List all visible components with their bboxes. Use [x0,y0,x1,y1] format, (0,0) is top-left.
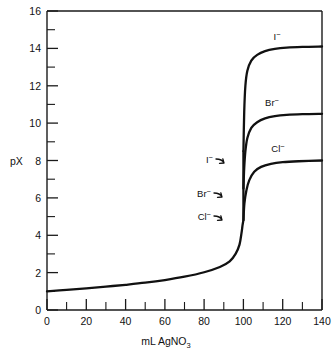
series-label-bromide-outer: Br− [265,96,280,108]
y-tick-label: 10 [29,117,41,129]
series-label-bromide-outer-text: Br [265,97,275,108]
curve-iodide [243,47,322,152]
shared-titration-curve [47,151,243,291]
y-tick-label: 4 [35,229,41,241]
y-axis-tick-labels: 0 2 4 6 8 10 12 14 16 [29,5,41,316]
y-tick-label: 6 [35,192,41,204]
series-label-chloride-outer: Cl− [271,142,285,154]
y-tick-label: 2 [35,267,41,279]
y-tick-label: 12 [29,80,41,92]
x-tick-label: 140 [313,315,331,327]
curve-chloride [243,161,322,221]
x-axis-title-subscript: 3 [186,341,190,350]
series-label-chloride-inner-charge: − [207,210,212,219]
series-label-chloride-outer-charge: − [280,142,285,151]
series-label-bromide-inner-text: Br [197,188,207,199]
series-label-iodide-inner: I− [206,153,214,165]
x-tick-label: 40 [120,315,132,327]
y-tick-label: 8 [35,155,41,167]
x-tick-label: 80 [198,315,210,327]
x-axis-title: mL AgNO3 [141,335,190,350]
series-label-iodide-outer: I− [273,30,281,42]
series-label-bromide-inner: Br− [197,187,212,199]
series-label-iodide-inner-charge: − [209,153,214,162]
series-label-chloride-inner-text: Cl [198,211,207,222]
chart-figure: 0 2 4 6 8 10 12 14 16 pX [0,0,334,352]
series-label-bromide-outer-charge: − [275,96,280,105]
x-tick-label: 0 [44,315,50,327]
leader-arrow-iodide [216,159,224,164]
y-tick-label: 16 [29,5,41,17]
series-label-iodide-outer-charge: − [276,30,281,39]
leader-arrows [214,159,224,221]
y-tick-label: 0 [35,304,41,316]
x-axis-tick-labels: 0 20 40 60 80 100 120 140 [44,315,331,327]
leader-arrow-chloride [214,216,222,221]
series-label-bromide-inner-charge: − [207,187,212,196]
curve-bromide [243,114,322,189]
x-tick-label: 20 [80,315,92,327]
x-axis-ticks [47,299,322,310]
titration-curve-chart: 0 2 4 6 8 10 12 14 16 pX [0,0,334,352]
y-axis-title: pX [10,155,23,167]
series-labels-inner: I− Br− Cl− [197,153,214,222]
x-tick-label: 60 [159,315,171,327]
y-tick-label: 14 [29,42,41,54]
series-label-chloride-inner: Cl− [198,210,212,222]
x-axis-title-main: mL AgNO [141,335,186,347]
leader-arrow-bromide [214,193,222,198]
x-tick-label: 120 [274,315,292,327]
plot-frame [47,11,322,310]
series-label-chloride-outer-text: Cl [271,143,280,154]
x-tick-label: 100 [235,315,253,327]
curve-group [47,47,322,292]
y-axis-ticks [47,11,58,310]
